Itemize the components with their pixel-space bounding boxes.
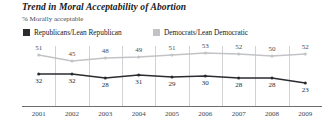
data-point xyxy=(171,54,174,57)
data-point xyxy=(271,77,274,80)
legend-swatch-democrat xyxy=(153,29,160,36)
plot-area xyxy=(22,46,322,106)
data-label: 32 xyxy=(69,77,76,85)
x-axis-tick-label: 2002 xyxy=(65,110,79,118)
x-axis-tick-label: 2001 xyxy=(32,110,46,118)
x-axis-tick-label: 2003 xyxy=(98,110,112,118)
data-label: 29 xyxy=(169,80,176,88)
data-label: 52 xyxy=(235,43,242,51)
data-point xyxy=(204,52,207,55)
legend-item-democrat: Democrats/Lean Democratic xyxy=(153,28,248,37)
series-lines xyxy=(22,46,322,106)
data-label: 31 xyxy=(135,78,142,86)
data-point xyxy=(171,76,174,79)
data-point xyxy=(304,53,307,56)
data-label: 51 xyxy=(35,44,42,52)
data-point xyxy=(104,77,107,80)
data-label: 28 xyxy=(235,81,242,89)
data-point xyxy=(304,82,307,85)
data-point xyxy=(271,55,274,58)
data-point xyxy=(71,73,74,76)
data-point xyxy=(137,56,140,59)
x-axis-tick-label: 2008 xyxy=(265,110,279,118)
data-label: 53 xyxy=(202,42,209,50)
chart-subtitle: % Morally acceptable xyxy=(22,15,83,23)
page-title: Trend in Moral Acceptability of Abortion xyxy=(22,2,186,12)
x-axis-tick-label: 2005 xyxy=(165,110,179,118)
data-label: 28 xyxy=(102,81,109,89)
x-axis-tick-label: 2004 xyxy=(132,110,146,118)
data-label: 45 xyxy=(69,50,76,58)
data-label: 52 xyxy=(302,43,309,51)
x-axis-line xyxy=(22,106,322,107)
data-label: 30 xyxy=(202,79,209,87)
data-label: 51 xyxy=(169,44,176,52)
data-label: 28 xyxy=(269,81,276,89)
legend-label-republican: Republicans/Lean Republican xyxy=(34,28,122,37)
data-point xyxy=(237,77,240,80)
data-label: 48 xyxy=(102,47,109,55)
x-axis-tick-label: 2007 xyxy=(232,110,246,118)
data-label: 23 xyxy=(302,86,309,94)
x-axis-tick-label: 2009 xyxy=(298,110,312,118)
data-point xyxy=(37,54,40,57)
legend-label-democrat: Democrats/Lean Democratic xyxy=(164,28,248,37)
data-point xyxy=(204,75,207,78)
data-point xyxy=(237,53,240,56)
legend-item-republican: Republicans/Lean Republican xyxy=(23,28,122,37)
x-axis-tick-label: 2006 xyxy=(198,110,212,118)
legend-swatch-republican xyxy=(23,29,30,36)
data-label: 32 xyxy=(35,77,42,85)
data-point xyxy=(71,60,74,63)
data-point xyxy=(104,57,107,60)
chart-page: Trend in Moral Acceptability of Abortion… xyxy=(0,0,335,137)
data-label: 50 xyxy=(269,45,276,53)
data-point xyxy=(37,73,40,76)
data-point xyxy=(137,74,140,77)
data-label: 49 xyxy=(135,46,142,54)
